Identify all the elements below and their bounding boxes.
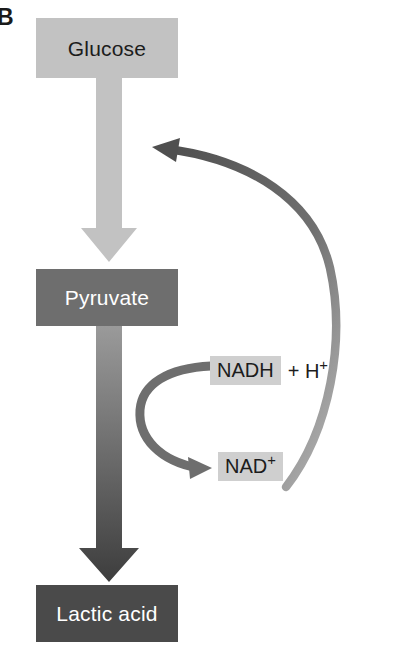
node-pyruvate: Pyruvate — [36, 269, 178, 326]
cofactor-nad-plus-text: NAD — [225, 455, 267, 477]
fermentation-diagram: B Gluco — [0, 0, 403, 671]
arrow-pyruvate-to-lactic-acid — [79, 326, 139, 582]
cofactor-nadh-tail-text: + H — [288, 360, 320, 382]
cofactor-nadh-tail: + H+ — [281, 361, 328, 381]
arrow-glucose-to-pyruvate — [81, 78, 137, 262]
cofactor-nadh: NADH + H+ — [210, 356, 328, 385]
cofactor-nadh-charge: + — [319, 357, 328, 373]
arrow-nadh-to-nad-plus — [140, 366, 212, 479]
node-glucose-label: Glucose — [68, 38, 146, 59]
cofactor-nad-plus-charge: + — [267, 452, 276, 468]
node-lactic-acid: Lactic acid — [36, 585, 178, 642]
node-pyruvate-label: Pyruvate — [65, 287, 149, 308]
cofactor-nad-plus: NAD+ — [218, 452, 283, 481]
arrow-layer — [0, 0, 403, 671]
cofactor-nad-plus-chip: NAD+ — [218, 452, 283, 481]
cofactor-nadh-chip: NADH — [210, 356, 281, 385]
arrow-nad-plus-recycle — [152, 138, 336, 487]
node-lactic-acid-label: Lactic acid — [56, 603, 157, 624]
node-glucose: Glucose — [36, 18, 178, 78]
